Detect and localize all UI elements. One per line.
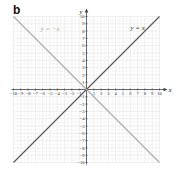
x-tick-label: 6 xyxy=(129,91,132,96)
x-tick-label: 5 xyxy=(122,91,125,96)
x-axis-label: x xyxy=(168,86,173,94)
y-tick-label: 10 xyxy=(80,14,85,19)
x-tick-label: −6 xyxy=(40,91,46,96)
x-tick-label: 10 xyxy=(157,91,162,96)
y-tick-label: −10 xyxy=(77,160,85,165)
x-tick-label: −4 xyxy=(55,91,61,96)
x-tick-label: −8 xyxy=(26,91,32,96)
line-labels: y = −xy = x xyxy=(39,24,145,33)
y-tick-label: −2 xyxy=(80,102,86,107)
coordinate-plane: xy −10−9−8−7−6−5−4−3−2−112345678910−10−9… xyxy=(0,0,178,178)
x-tick-label: 9 xyxy=(151,91,154,96)
x-tick-label: −7 xyxy=(33,91,39,96)
y-axis-arrow-icon xyxy=(85,9,89,13)
label-y-equals-x: y = x xyxy=(129,24,145,32)
x-tick-label: 7 xyxy=(136,91,139,96)
x-tick-label: −5 xyxy=(48,91,54,96)
x-tick-label: −9 xyxy=(18,91,24,96)
y-tick-label: −6 xyxy=(80,131,86,136)
y-tick-label: −7 xyxy=(80,138,86,143)
x-tick-label: −2 xyxy=(69,91,75,96)
y-tick-label: −9 xyxy=(80,153,86,158)
x-tick-label: −3 xyxy=(62,91,68,96)
label-y-equals-neg-x: y = −x xyxy=(39,25,60,33)
panel-label: b xyxy=(13,3,20,17)
y-tick-label: −5 xyxy=(80,124,86,129)
y-tick-label: −4 xyxy=(80,116,86,121)
y-tick-label: −3 xyxy=(80,109,86,114)
x-axis-arrow-icon xyxy=(164,88,168,92)
y-tick-label: −8 xyxy=(80,146,86,151)
x-tick-label: 8 xyxy=(144,91,147,96)
x-tick-label: 4 xyxy=(115,91,118,96)
x-tick-label: 3 xyxy=(107,91,110,96)
x-tick-label: −10 xyxy=(10,91,18,96)
graph-figure: b xy −10−9−8−7−6−5−4−3−2−112345678910−10… xyxy=(0,0,178,178)
x-tick-label: 2 xyxy=(100,91,103,96)
